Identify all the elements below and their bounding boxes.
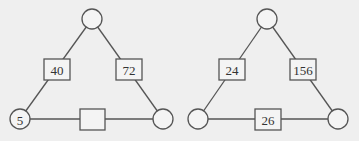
svg-text:156: 156 — [293, 63, 313, 78]
bottom-right-circle — [153, 109, 173, 129]
svg-text:24: 24 — [226, 63, 240, 78]
bottom-left-circle — [188, 109, 208, 129]
left-triangle: 5 40 72 — [10, 9, 173, 130]
right-box: 72 — [116, 59, 142, 80]
right-box: 156 — [290, 59, 316, 80]
svg-text:40: 40 — [51, 63, 64, 78]
svg-text:5: 5 — [17, 113, 24, 128]
diagram-canvas: 5 40 72 — [0, 0, 359, 141]
bottom-left-circle: 5 — [10, 109, 30, 129]
left-box: 40 — [44, 59, 70, 80]
left-box: 24 — [219, 59, 245, 80]
bottom-right-circle — [328, 109, 348, 129]
bottom-box — [80, 109, 105, 130]
svg-text:26: 26 — [262, 113, 276, 128]
right-triangle: 24 156 26 — [188, 9, 348, 130]
bottom-box: 26 — [255, 109, 281, 130]
top-circle — [82, 9, 102, 29]
top-circle — [257, 9, 277, 29]
svg-text:72: 72 — [123, 63, 136, 78]
